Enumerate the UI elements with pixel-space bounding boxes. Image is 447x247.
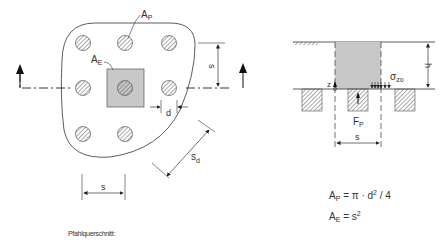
section-arrow-left-icon bbox=[16, 64, 24, 74]
diagonal-spacing-label: sd bbox=[191, 151, 200, 164]
pile bbox=[162, 81, 177, 96]
stress-label: σzo bbox=[390, 71, 404, 83]
pile bbox=[76, 81, 91, 96]
pile-section bbox=[395, 89, 415, 111]
pile bbox=[118, 36, 133, 51]
z-axis-label: z bbox=[327, 80, 331, 89]
plan-view: AP AE s d sd s bbox=[16, 9, 247, 200]
pile-section bbox=[302, 89, 322, 111]
pile bbox=[76, 36, 91, 51]
pile-area-label: AP bbox=[141, 9, 153, 21]
section-spacing-label: s bbox=[355, 132, 360, 142]
section-view: z FP σzo h s bbox=[293, 42, 435, 150]
unit-area-formula: AE = s2 bbox=[329, 210, 361, 223]
pile bbox=[118, 81, 133, 96]
pile bbox=[162, 36, 177, 51]
pile bbox=[76, 127, 91, 142]
pile-force-label: FP bbox=[353, 116, 364, 128]
pile-grid bbox=[76, 36, 177, 142]
height-label: h bbox=[423, 63, 433, 68]
soil-column bbox=[335, 42, 381, 89]
pile bbox=[118, 127, 133, 142]
section-arrow-right-icon bbox=[239, 63, 247, 73]
diameter-label: d bbox=[166, 108, 171, 118]
unit-area-label: AE bbox=[91, 54, 103, 66]
spacing-horizontal-label: s bbox=[101, 182, 106, 192]
spacing-vertical-label: s bbox=[207, 64, 217, 69]
pile-area-formula: AP = π · d2 / 4 bbox=[329, 189, 391, 202]
diagram-canvas: AP AE s d sd s bbox=[0, 0, 447, 247]
cross-section-caption: Pfahlquerschnitt: bbox=[68, 230, 115, 237]
